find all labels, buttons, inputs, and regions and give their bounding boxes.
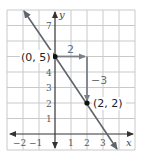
x-tick-3: 3 — [100, 138, 106, 148]
y-tick-7: 7 — [46, 21, 52, 31]
x-tick-2: 2 — [84, 138, 90, 148]
x-axis-label: x — [126, 137, 132, 148]
point-label-2-2: (2, 2) — [93, 97, 123, 110]
point-label-0-5: (0, 5) — [21, 51, 51, 64]
coordinate-graph: y x 7 4 3 2 1 −2 −1 1 2 3 2 −3 (0, 5) (2… — [0, 0, 142, 157]
y-tick-2: 2 — [46, 99, 52, 109]
y-axis-label: y — [58, 9, 65, 20]
y-tick-1: 1 — [46, 114, 52, 124]
x-tick-neg1: −1 — [29, 138, 42, 148]
point-0-5 — [52, 54, 57, 59]
x-tick-1: 1 — [68, 138, 74, 148]
point-2-2 — [84, 100, 89, 105]
y-tick-3: 3 — [46, 83, 52, 93]
rise-label: −3 — [91, 74, 107, 87]
y-tick-4: 4 — [46, 68, 52, 78]
x-tick-neg2: −2 — [13, 138, 26, 148]
run-label: 2 — [67, 43, 74, 56]
